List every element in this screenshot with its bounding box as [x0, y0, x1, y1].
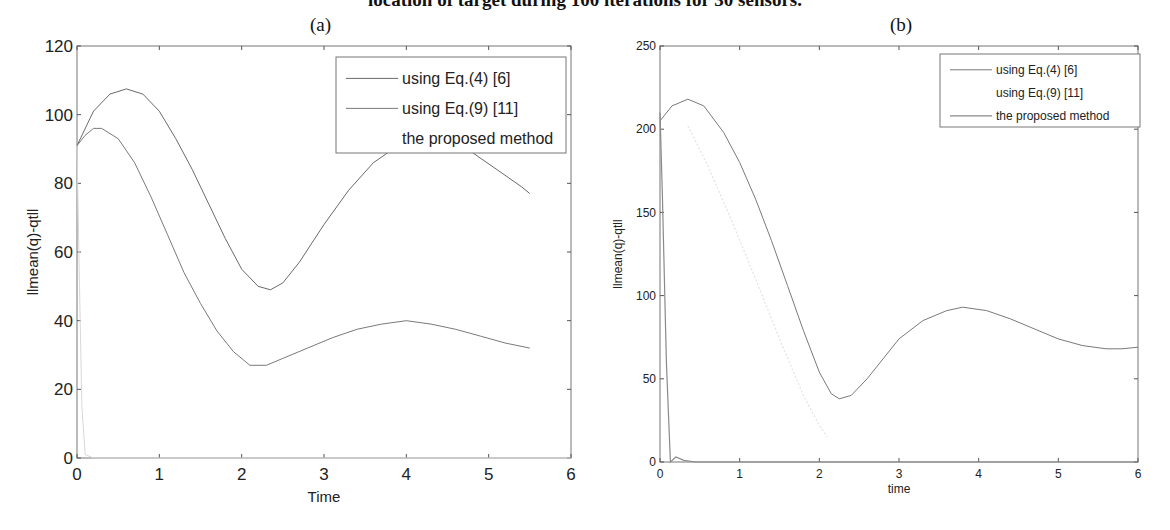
line-chart-b: 0123456050100150200250timellmean(q)-qtll… [0, 0, 1170, 530]
y-axis-title: llmean(q)-qtll [611, 219, 625, 288]
y-tick-label: 200 [636, 122, 656, 136]
y-tick-label: 100 [636, 289, 656, 303]
legend-entry-3: the proposed method [996, 109, 1109, 123]
x-tick-label: 5 [1055, 467, 1062, 481]
y-tick-label: 0 [649, 455, 656, 469]
x-tick-label: 6 [1135, 467, 1142, 481]
x-axis-title: time [888, 482, 911, 496]
y-tick-label: 50 [643, 372, 657, 386]
x-tick-label: 0 [657, 467, 664, 481]
y-tick-label: 250 [636, 39, 656, 53]
series-line-3 [660, 113, 1138, 462]
series-line-1 [660, 99, 1138, 399]
x-tick-label: 3 [896, 467, 903, 481]
x-tick-label: 1 [736, 467, 743, 481]
legend-entry-2: using Eq.(9) [11] [996, 86, 1083, 100]
x-tick-label: 4 [975, 467, 982, 481]
legend-entry-1: using Eq.(4) [6] [996, 63, 1077, 77]
x-tick-label: 2 [816, 467, 823, 481]
series-line-2 [688, 126, 827, 437]
y-tick-label: 150 [636, 206, 656, 220]
